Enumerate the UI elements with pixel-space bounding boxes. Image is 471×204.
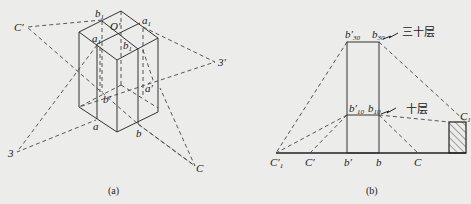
label-b30-prime: b′30 — [345, 28, 360, 42]
label-b1-prime: b1 — [95, 7, 104, 21]
label-C-prime: C′ — [14, 21, 24, 33]
shadow-3 — [17, 45, 97, 152]
annotation-10-floors: 十层 — [406, 102, 428, 116]
ray-b30p-C1p — [276, 42, 347, 153]
label-b: b — [376, 156, 382, 168]
caption-a: (a) — [108, 185, 119, 197]
figure-a: b1 O′ a1 a1 b1 C′ 3′ b′ a′ a b 3 C (a) — [7, 7, 227, 197]
diagram-canvas: b1 O′ a1 a1 b1 C′ 3′ b′ a′ a b 3 C (a) — [0, 0, 471, 204]
label-b1: b1 — [123, 39, 132, 53]
label-C1-prime: C′1 — [270, 156, 283, 170]
shadow-C — [138, 88, 195, 166]
shadow-C-prime — [27, 20, 195, 166]
ray-b10p-Cp — [310, 115, 347, 153]
ray-b10p-C1p — [276, 115, 347, 153]
annotation-30-floors: 三十层 — [402, 25, 435, 39]
label-3-prime: 3′ — [217, 56, 227, 68]
label-b30: b30 — [372, 28, 385, 42]
label-b10-prime: b′10 — [349, 102, 364, 116]
label-a1: a1 — [92, 32, 101, 46]
ray-b10-C1 — [379, 115, 449, 122]
adjacent-building — [449, 122, 466, 153]
building-elevation — [347, 42, 379, 153]
shadow-a-prime — [143, 50, 153, 84]
label-3: 3 — [7, 147, 14, 159]
label-O-prime: O′ — [110, 20, 121, 32]
label-C1: C1 — [460, 110, 471, 124]
label-b-prime: b′ — [344, 156, 353, 168]
arrow-10-floor — [381, 108, 396, 114]
ray-b10-C — [379, 115, 418, 153]
label-C: C — [196, 162, 204, 174]
label-b: b — [136, 127, 142, 139]
figure-b: b′30 b30 三十层 b′10 b10 十层 C′1 C′ b′ b C C… — [270, 25, 471, 197]
arrow-30-floor — [383, 33, 398, 39]
label-a-prime: a′ — [145, 82, 154, 94]
caption-b: (b) — [366, 185, 378, 197]
label-C: C — [414, 156, 422, 168]
label-a1-prime: a1 — [142, 14, 151, 28]
label-C-prime: C′ — [305, 156, 315, 168]
label-b-prime: b′ — [103, 93, 112, 105]
label-a: a — [93, 120, 99, 132]
bottom-edges — [79, 107, 158, 132]
